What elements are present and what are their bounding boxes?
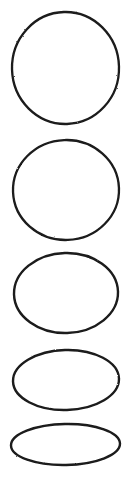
ellipse-series-figure (0, 0, 132, 489)
figure-page: ellipse series (0, 0, 132, 489)
figure-background (0, 0, 132, 489)
